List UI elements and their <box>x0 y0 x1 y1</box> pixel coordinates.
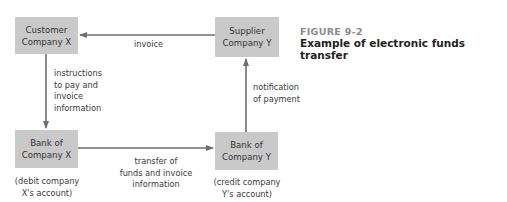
bank-of-company-y-node: Bank of Company Y <box>215 132 278 170</box>
bank-of-company-x-node: Bank of Company X <box>15 130 78 168</box>
customer-company-x-node: Customer Company X <box>15 17 78 54</box>
supplier-company-y-label: Supplier Company Y <box>223 25 272 49</box>
instructions-label: instructions to pay and invoice informat… <box>54 68 102 114</box>
bank-x-note: (debit company X's account) <box>2 176 92 199</box>
bank-of-company-y-label: Bank of Company Y <box>222 139 271 163</box>
transfer-label: transfer of funds and invoice informatio… <box>106 156 206 191</box>
bank-of-company-x-label: Bank of Company X <box>22 137 72 161</box>
supplier-company-y-node: Supplier Company Y <box>215 17 279 57</box>
bank-y-note: (credit company Y's account) <box>202 177 292 200</box>
notification-label: notification of payment <box>253 82 300 105</box>
invoice-label: invoice <box>134 39 163 51</box>
customer-company-x-label: Customer Company X <box>22 24 72 48</box>
figure-title: Example of electronic funds transfer <box>300 37 507 61</box>
figure-number: FIGURE 9-2 <box>300 26 363 37</box>
